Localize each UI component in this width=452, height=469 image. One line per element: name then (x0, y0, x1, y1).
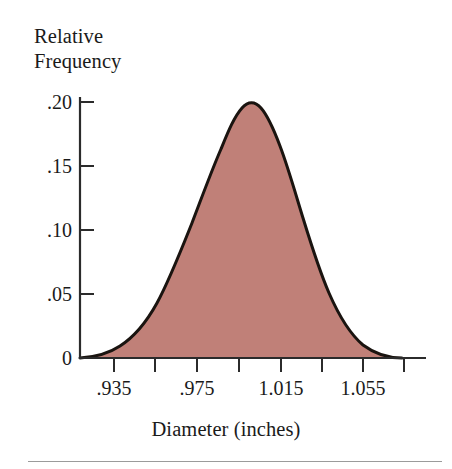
bottom-divider (28, 461, 442, 462)
distribution-curve-fill (80, 103, 402, 358)
x-axis-title: Diameter (inches) (0, 418, 452, 441)
plot-area (0, 0, 452, 469)
relative-frequency-distribution-figure: Relative Frequency .20 .15 .10 .05 0 .93… (0, 0, 452, 469)
